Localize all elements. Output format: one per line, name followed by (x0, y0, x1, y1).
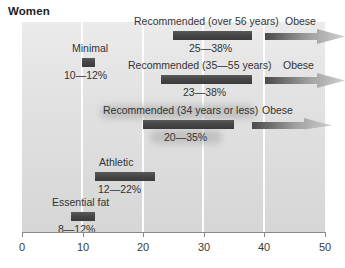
bar-label-minimal: Minimal (72, 42, 108, 54)
bar-label-essential-fat: Essential fat (52, 196, 109, 208)
x-axis-label-40: 40 (258, 241, 270, 253)
x-axis-tick-0 (22, 232, 23, 237)
bar-value-minimal: 10—12% (64, 69, 107, 81)
range-bar-essential-fat (71, 212, 95, 221)
obese-arrow-row-2 (265, 73, 345, 88)
range-bar-recommended-over-56 (173, 31, 252, 40)
bar-label-recommended-34-or-less: Recommended (34 years or less) (103, 104, 258, 116)
x-axis-tick-10 (83, 232, 84, 237)
x-axis-tick-40 (264, 232, 265, 237)
obese-arrow-row-1 (265, 29, 345, 44)
x-axis-tick-30 (204, 232, 205, 237)
bar-value-athletic: 12—22% (98, 183, 141, 195)
range-bar-recommended-35-55 (161, 75, 252, 84)
chart-title: Women (8, 5, 50, 17)
obese-arrow-row-3 (252, 118, 332, 133)
obese-label-row-3: Obese (262, 104, 293, 116)
bar-value-recommended-35-55: 23—38% (183, 86, 226, 98)
bar-label-recommended-over-56: Recommended (over 56 years) (134, 15, 279, 27)
bar-value-recommended-34-or-less: 20—35% (164, 131, 207, 143)
bar-value-essential-fat: 8—12% (58, 223, 95, 235)
x-axis-tick-50 (325, 232, 326, 237)
x-axis-label-20: 20 (137, 241, 149, 253)
bar-label-athletic: Athletic (99, 156, 133, 168)
obese-label-row-1: Obese (285, 15, 316, 27)
obese-label-row-2: Obese (283, 59, 314, 71)
bar-value-recommended-over-56: 25—38% (189, 42, 232, 54)
x-axis-line (22, 232, 325, 233)
body-fat-range-chart: Women Recommended (over 56 years) 25—38%… (0, 0, 345, 268)
bar-label-recommended-35-55: Recommended (35—55 years) (128, 59, 272, 71)
x-axis-label-50: 50 (319, 241, 331, 253)
x-axis-label-10: 10 (77, 241, 89, 253)
x-axis-label-0: 0 (19, 241, 25, 253)
range-bar-recommended-34-or-less (143, 120, 234, 129)
range-bar-athletic (95, 172, 155, 181)
x-axis-tick-20 (143, 232, 144, 237)
range-bar-minimal (82, 58, 95, 67)
x-axis-label-30: 30 (198, 241, 210, 253)
